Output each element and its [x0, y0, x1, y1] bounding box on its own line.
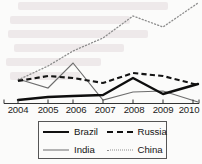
series-line-china: [18, 3, 198, 80]
line-swatch-icon: [107, 127, 133, 136]
line-swatch-icon: [107, 145, 133, 154]
chart-figure: 2004 2005 2006 2007 2008 2009 2010 Brazi…: [0, 0, 202, 164]
x-tick-label: 2005: [38, 104, 59, 115]
legend-item-brazil: Brazil: [39, 122, 103, 141]
series-lines: [18, 3, 198, 102]
x-tick-label: 2006: [66, 104, 87, 115]
legend-label: China: [133, 144, 163, 155]
x-tick-label: 2007: [95, 104, 116, 115]
x-tick-label: 2010: [179, 104, 200, 115]
legend-item-russia: Russia: [103, 122, 167, 141]
chart-legend: Brazil Russia India China: [38, 121, 167, 159]
x-tick-label: 2009: [153, 104, 174, 115]
series-line-russia: [18, 73, 198, 85]
legend-item-china: China: [103, 140, 167, 159]
x-tick-label: 2008: [124, 104, 145, 115]
legend-label: Brazil: [69, 126, 98, 137]
line-swatch-icon: [43, 145, 69, 154]
x-axis: [4, 100, 199, 104]
x-tick-label: 2004: [8, 104, 29, 115]
series-line-brazil: [18, 78, 198, 100]
legend-label: Russia: [133, 126, 167, 137]
line-swatch-icon: [43, 127, 69, 136]
legend-item-india: India: [39, 140, 103, 159]
chart-plot-area: [0, 0, 202, 112]
legend-label: India: [69, 144, 95, 155]
x-axis-tick-labels: 2004 2005 2006 2007 2008 2009 2010: [0, 104, 202, 119]
